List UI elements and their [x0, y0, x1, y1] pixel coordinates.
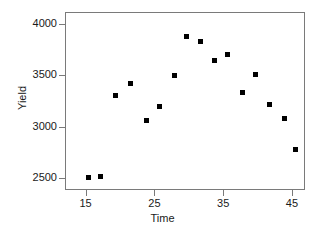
y-tick-label: 4000: [33, 17, 57, 29]
data-point: [225, 52, 230, 57]
x-tick-mark: [223, 190, 224, 196]
data-point: [128, 81, 133, 86]
x-tick-mark: [154, 190, 155, 196]
data-point: [198, 39, 203, 44]
y-tick-mark: [59, 75, 65, 76]
y-tick-label: 3000: [33, 120, 57, 132]
y-tick-mark: [59, 127, 65, 128]
data-point: [86, 175, 91, 180]
data-point: [293, 147, 298, 152]
data-point: [157, 104, 162, 109]
y-tick-mark: [59, 178, 65, 179]
data-point: [184, 34, 189, 39]
x-tick-label: 35: [203, 197, 243, 209]
x-tick-mark: [86, 190, 87, 196]
x-tick-mark: [292, 190, 293, 196]
data-point: [172, 73, 177, 78]
x-tick-label: 25: [134, 197, 174, 209]
x-tick-label: 15: [66, 197, 106, 209]
y-tick-mark: [59, 24, 65, 25]
x-axis-label: Time: [0, 212, 325, 224]
data-point: [144, 118, 149, 123]
data-point: [212, 58, 217, 63]
y-tick-label: 2500: [33, 171, 57, 183]
y-axis-label: Yield: [16, 68, 28, 128]
data-point: [98, 174, 103, 179]
scatter-plot-figure: 2500300035004000 15253545 Time Yield: [0, 0, 325, 232]
y-tick-label: 3500: [33, 68, 57, 80]
x-tick-label: 45: [272, 197, 312, 209]
data-point: [282, 116, 287, 121]
data-point: [267, 102, 272, 107]
data-point: [253, 72, 258, 77]
data-point: [240, 90, 245, 95]
data-point: [113, 93, 118, 98]
